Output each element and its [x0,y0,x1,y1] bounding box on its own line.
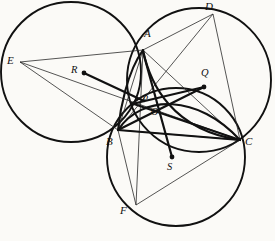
segment-E-A [20,50,143,62]
point-label-E: E [7,55,14,66]
segment-A-F [136,50,143,205]
circle-centered-at-S [107,88,245,226]
point-label-F: F [120,205,127,216]
point-label-S: S [167,162,172,173]
point-label-O: O [151,107,158,117]
point-label-R: R [71,65,77,76]
circles-group [1,2,271,226]
center-dot-S [170,155,175,160]
point-label-A: A [144,28,151,39]
point-label-B: B [106,136,113,147]
point-label-D: D [205,1,213,12]
point-label-P: P [142,94,148,104]
center-dots-group [82,71,207,160]
segment-R-to-P [84,73,144,101]
segment-A-D [143,14,213,50]
point-label-C: C [245,136,252,147]
segment-B-to-C-thick [118,130,240,140]
geometry-figure: A B C D E F P O R Q S [0,0,275,241]
segment-B-F [118,130,136,205]
segment-E-B [20,62,118,130]
point-label-Q: Q [201,68,209,79]
diagram-canvas [0,0,275,241]
center-dot-Q [202,85,207,90]
center-dot-R [82,71,87,76]
segment-F-C [136,140,240,205]
